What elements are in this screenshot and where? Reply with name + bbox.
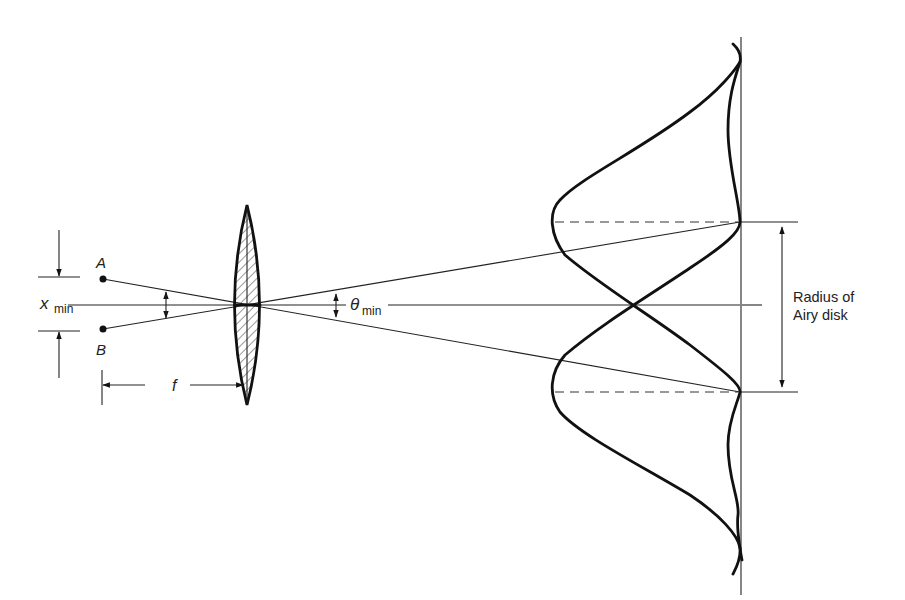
xmin-label: x	[39, 294, 49, 313]
airy-pattern-b	[552, 62, 740, 574]
label-b: B	[96, 341, 106, 358]
point-b	[100, 326, 107, 333]
focal-label: f	[172, 377, 178, 394]
airy-pattern-a	[552, 44, 742, 560]
point-a	[100, 276, 107, 283]
airy-disk-diagram: A B x min f θ min Radius of Airy disk	[0, 0, 905, 600]
ray-from-a	[103, 279, 740, 392]
radius-label-2: Airy disk	[793, 307, 849, 323]
radius-label-1: Radius of	[793, 289, 855, 305]
theta-subscript: min	[362, 304, 381, 318]
xmin-subscript: min	[54, 302, 73, 316]
theta-label: θ	[350, 295, 360, 314]
label-a: A	[95, 254, 106, 271]
